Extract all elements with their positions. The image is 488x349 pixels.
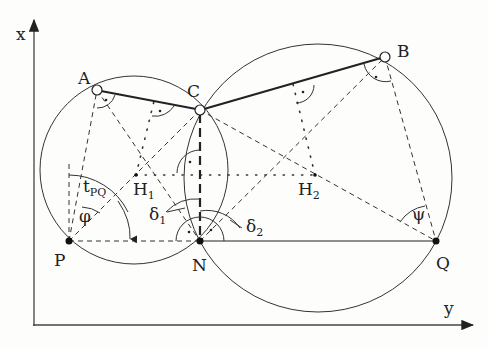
delta2-leader <box>230 220 242 228</box>
point-n <box>197 238 204 245</box>
c-b-thick <box>204 58 381 109</box>
diagram-svg <box>0 0 488 349</box>
arc-delta1 <box>166 199 200 212</box>
arc-at-a <box>97 95 115 108</box>
label-b: B <box>397 43 410 60</box>
label-q: Q <box>436 255 450 272</box>
axes <box>33 20 473 326</box>
a-c-thick <box>101 91 196 109</box>
arc-c-n-right <box>177 150 200 173</box>
h1-perp-dotted <box>136 97 155 175</box>
y-axis-label: y <box>444 300 454 317</box>
right-circle <box>184 44 452 312</box>
b-q-dashed <box>385 57 436 241</box>
point-h1 <box>134 173 138 177</box>
label-delta1: δ1 <box>149 206 166 226</box>
diagram-canvas: x y A C B P N Q H1 H2 tPQ φ δ1 δ2 ψ <box>0 0 488 349</box>
arc-at-c-left <box>152 106 174 116</box>
label-delta2: δ2 <box>246 218 263 238</box>
arc-delta2 <box>200 210 240 228</box>
angle-arcs <box>69 64 425 241</box>
label-psi: ψ <box>412 206 425 223</box>
point-q <box>433 238 440 245</box>
label-h1: H1 <box>133 181 155 201</box>
point-b <box>380 52 390 62</box>
arc-at-b <box>364 64 391 82</box>
label-n: N <box>192 257 207 274</box>
label-a: A <box>78 70 90 87</box>
arc-tpq-arrow <box>118 201 130 239</box>
label-h2: H2 <box>298 181 320 201</box>
label-c: C <box>187 83 200 100</box>
label-p: P <box>54 252 65 269</box>
x-axis-label: x <box>16 26 26 43</box>
point-h2 <box>313 173 317 177</box>
point-a <box>92 85 102 95</box>
point-p <box>66 238 73 245</box>
label-phi: φ <box>79 208 91 225</box>
dashed-lines <box>69 57 436 241</box>
label-tpq: tPQ <box>83 178 106 198</box>
arc-at-cb-mid <box>296 85 314 103</box>
point-c <box>195 105 205 115</box>
